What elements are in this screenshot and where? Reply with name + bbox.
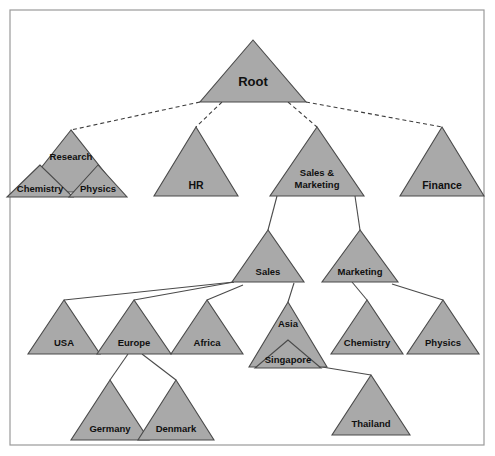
node-sales[interactable]: Sales <box>232 230 304 282</box>
edge-sales-to-africa <box>207 285 243 300</box>
label-africa: Africa <box>194 337 222 348</box>
label-physics1: Physics <box>80 183 116 194</box>
tree-diagram-canvas: RootResearchChemistryPhysicsHRSales &Mar… <box>0 0 495 456</box>
label-marketing: Marketing <box>338 266 383 277</box>
edge-root-to-hr <box>196 102 222 127</box>
label-chemistry1: Chemistry <box>17 183 64 194</box>
node-africa[interactable]: Africa <box>171 300 243 354</box>
node-usa[interactable]: USA <box>28 300 100 354</box>
edge-marketing-to-physics2 <box>392 284 443 300</box>
node-germany[interactable]: Germany <box>71 380 149 440</box>
label-finance: Finance <box>422 179 462 191</box>
node-layer: RootResearchChemistryPhysicsHRSales &Mar… <box>7 40 484 440</box>
edge-europe-to-germany <box>110 354 128 380</box>
label-physics2: Physics <box>425 337 461 348</box>
node-europe[interactable]: Europe <box>97 300 171 354</box>
node-root[interactable]: Root <box>200 40 306 102</box>
node-thailand[interactable]: Thailand <box>332 375 410 435</box>
node-chemistry2[interactable]: Chemistry <box>331 300 403 354</box>
edge-sales_mkt-to-marketing <box>355 196 360 230</box>
node-marketing[interactable]: Marketing <box>322 230 398 282</box>
label-usa: USA <box>54 337 74 348</box>
node-finance[interactable]: Finance <box>400 127 484 196</box>
hierarchy-tree-svg: RootResearchChemistryPhysicsHRSales &Mar… <box>0 0 495 456</box>
label-europe: Europe <box>118 337 151 348</box>
triangle-root <box>200 40 306 102</box>
edge-root-to-sales_mkt <box>288 102 317 127</box>
label-thailand: Thailand <box>351 418 390 429</box>
edge-europe-to-denmark <box>142 354 176 380</box>
edge-root-to-research <box>71 102 200 130</box>
node-denmark[interactable]: Denmark <box>138 380 214 440</box>
edge-marketing-to-chemistry2 <box>352 282 367 300</box>
edge-root-to-finance <box>306 102 442 127</box>
label-research: Research <box>50 151 93 162</box>
label-germany: Germany <box>89 423 131 434</box>
node-physics2[interactable]: Physics <box>407 300 479 354</box>
node-hr[interactable]: HR <box>154 127 238 196</box>
label-denmark: Denmark <box>156 423 197 434</box>
label-sales_mkt: Sales &Marketing <box>295 167 340 190</box>
label-chemistry2: Chemistry <box>344 337 391 348</box>
label-root: Root <box>238 74 268 89</box>
node-sales_mkt[interactable]: Sales &Marketing <box>270 127 364 196</box>
label-sales: Sales <box>256 266 281 277</box>
label-hr: HR <box>188 179 204 191</box>
edge-sales_mkt-to-sales <box>268 196 277 230</box>
label-asia: Asia <box>278 318 299 329</box>
label-singapore: Singapore <box>265 354 311 365</box>
edge-sales-to-asia <box>288 283 294 302</box>
